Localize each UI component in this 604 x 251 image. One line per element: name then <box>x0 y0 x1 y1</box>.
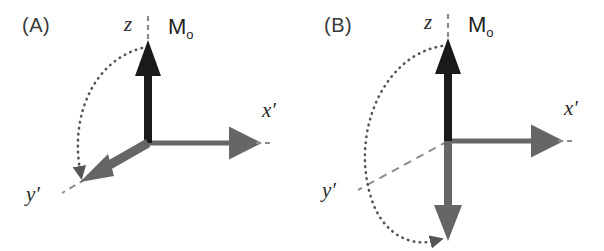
panel-b: (B) z x′ y′ Mo <box>302 0 604 251</box>
panel-a-graphics <box>0 0 302 251</box>
axis-label-z: z <box>424 10 432 35</box>
rotation-arc <box>365 46 442 242</box>
axis-label-x-prime: x′ <box>564 96 578 121</box>
axis-y-prime <box>358 141 448 190</box>
vector-label-m0-subscript: o <box>486 25 493 40</box>
axis-label-z: z <box>124 12 132 37</box>
vector-label-m0: Mo <box>468 12 494 38</box>
vector-label-m0-subscript: o <box>186 27 193 42</box>
vector-label-m0-base: M <box>168 14 186 39</box>
vector-label-m0-base: M <box>468 12 486 37</box>
panel-b-graphics <box>302 0 604 251</box>
axis-label-y-prime: y′ <box>26 182 40 207</box>
panel-a: (A) z x′ y′ Mo <box>0 0 302 251</box>
vector-m-inverted <box>434 141 462 241</box>
axis-label-y-prime: y′ <box>322 178 336 203</box>
panel-label-a: (A) <box>22 14 50 37</box>
vector-m-tilted <box>80 143 148 182</box>
panel-label-b: (B) <box>324 14 352 37</box>
vector-m0 <box>135 40 161 143</box>
figure-container: (A) z x′ y′ Mo <box>0 0 604 251</box>
vector-m0 <box>435 38 461 141</box>
vector-label-m0: Mo <box>168 14 194 40</box>
axis-label-x-prime: x′ <box>262 98 276 123</box>
